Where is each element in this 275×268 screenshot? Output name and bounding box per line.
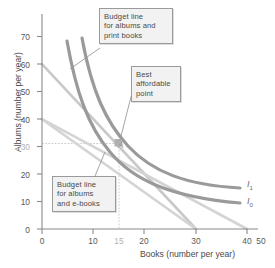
x-axis-title: Books (number per year) xyxy=(140,249,235,259)
callout-budget-line-e-books: Budget line for albums and e-books xyxy=(52,176,116,212)
y-tick-10: 10 xyxy=(8,197,30,207)
x-tick-10: 10 xyxy=(83,236,103,246)
y-axis-ticks xyxy=(37,37,42,230)
curve-label-i0: I0 xyxy=(247,196,253,208)
budget-line-e-books-segment xyxy=(42,119,247,229)
y-tick-20: 20 xyxy=(8,170,30,180)
x-axis-ticks xyxy=(42,229,247,234)
y-tick-0: 0 xyxy=(8,225,30,235)
x-tick-0: 0 xyxy=(32,236,52,246)
callout-budget-line-print-books: Budget line for albums and print books xyxy=(99,8,173,44)
figure-container: Budget line for albums and print books B… xyxy=(0,0,275,268)
curve-label-i1: I1 xyxy=(247,179,253,191)
point-a-label: A xyxy=(118,140,124,150)
x-tick-20: 20 xyxy=(134,236,154,246)
x-tick-30: 30 xyxy=(186,236,206,246)
callout-best-affordable-point: Best affordable point xyxy=(131,66,181,102)
curve-label-i0-subscript: 0 xyxy=(250,201,253,208)
y-axis-title: Albums (number per year) xyxy=(13,37,23,167)
x-tick-15: 15 xyxy=(109,236,129,246)
curve-label-i1-subscript: 1 xyxy=(250,184,253,191)
x-tick-50: 50 xyxy=(251,236,271,246)
